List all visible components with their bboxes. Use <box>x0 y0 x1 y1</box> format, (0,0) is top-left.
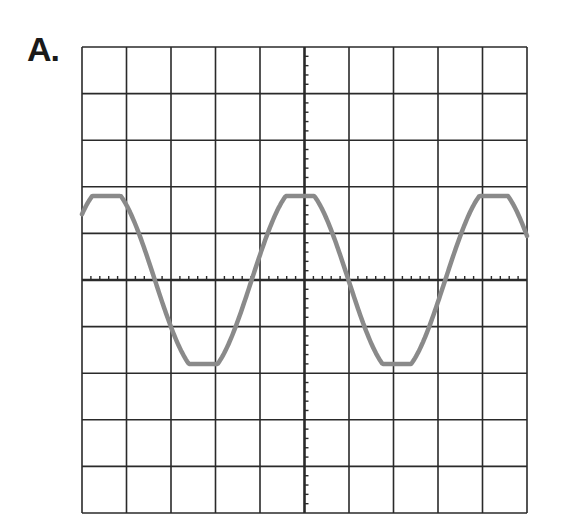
oscilloscope-display <box>0 0 563 531</box>
grid-lines <box>82 47 527 513</box>
